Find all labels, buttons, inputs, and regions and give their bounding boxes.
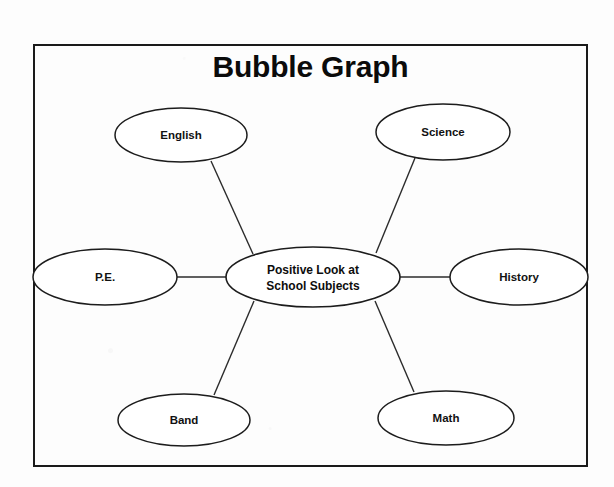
bubble-history-label: History bbox=[499, 271, 539, 283]
bubble-pe-label: P.E. bbox=[95, 271, 115, 283]
bubbles-group: English Science P.E. History Band Math bbox=[33, 104, 588, 446]
bubble-graph-canvas: English Science P.E. History Band Math bbox=[0, 0, 614, 487]
bubble-center-outline[interactable] bbox=[226, 247, 400, 307]
bubble-center-label-line-1: Positive Look at bbox=[267, 263, 359, 277]
connector-center-english bbox=[211, 161, 253, 254]
bubble-history[interactable]: History bbox=[450, 249, 588, 305]
bubble-graph-page: Bubble Graph English Science P.E. bbox=[0, 0, 614, 487]
connector-center-science bbox=[376, 158, 415, 253]
bubble-band-label: Band bbox=[170, 414, 199, 426]
bubble-english-label: English bbox=[160, 129, 202, 141]
bubble-math-label: Math bbox=[433, 412, 460, 424]
bubble-band[interactable]: Band bbox=[118, 394, 250, 446]
bubble-science-label: Science bbox=[421, 126, 464, 138]
bubble-pe[interactable]: P.E. bbox=[33, 249, 177, 305]
bubble-center[interactable]: Positive Look at School Subjects bbox=[226, 247, 400, 307]
connector-center-band bbox=[214, 301, 254, 395]
bubble-english[interactable]: English bbox=[115, 108, 247, 162]
bubble-center-label-line-2: School Subjects bbox=[266, 279, 360, 293]
bubble-math[interactable]: Math bbox=[378, 391, 514, 445]
connector-center-math bbox=[375, 301, 414, 392]
bubble-science[interactable]: Science bbox=[376, 104, 510, 160]
